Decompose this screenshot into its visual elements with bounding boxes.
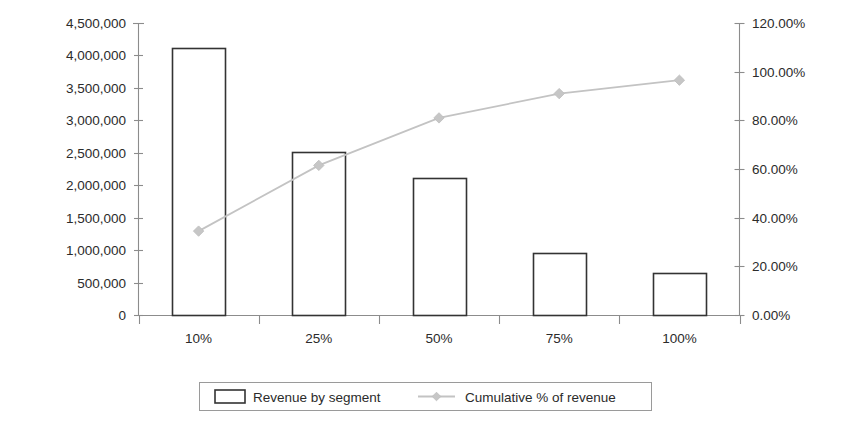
category-axis-tick-label: 100% xyxy=(662,331,697,346)
category-axis-tick-label: 10% xyxy=(185,331,212,346)
right-axis-tick-label: 0.00% xyxy=(752,308,790,323)
left-axis-tick-label: 3,000,000 xyxy=(66,113,126,128)
bar[interactable] xyxy=(414,179,467,316)
left-axis-tick-label: 1,000,000 xyxy=(66,243,126,258)
left-axis-tick-label: 2,000,000 xyxy=(66,178,126,193)
left-axis-tick-label: 500,000 xyxy=(77,276,126,291)
bar[interactable] xyxy=(173,49,226,316)
bar[interactable] xyxy=(293,153,346,316)
right-axis-tick-label: 60.00% xyxy=(752,162,798,177)
left-axis-tick-label: 0 xyxy=(118,308,126,323)
pareto-chart: 0500,0001,000,0001,500,0002,000,0002,500… xyxy=(0,0,850,436)
bar[interactable] xyxy=(654,274,707,316)
chart-legend: Revenue by segment Cumulative % of reven… xyxy=(200,383,652,411)
right-axis-tick-label: 120.00% xyxy=(752,16,805,31)
legend-label-revenue-by-segment: Revenue by segment xyxy=(253,390,381,405)
legend-entry-revenue-by-segment[interactable]: Revenue by segment xyxy=(215,390,381,405)
chart-canvas: 0500,0001,000,0001,500,0002,000,0002,500… xyxy=(0,0,850,436)
left-axis-tick-label: 1,500,000 xyxy=(66,211,126,226)
left-axis-tick-label: 4,500,000 xyxy=(66,16,126,31)
left-axis-tick-label: 2,500,000 xyxy=(66,146,126,161)
right-axis-tick-label: 40.00% xyxy=(752,211,798,226)
category-axis-tick-label: 50% xyxy=(425,331,452,346)
right-axis-tick-label: 20.00% xyxy=(752,259,798,274)
legend-swatch-bar-icon xyxy=(215,390,245,403)
legend-label-cumulative-percent: Cumulative % of revenue xyxy=(465,390,616,405)
right-axis-tick-label: 100.00% xyxy=(752,65,805,80)
left-axis-tick-label: 3,500,000 xyxy=(66,81,126,96)
category-axis-tick-label: 25% xyxy=(305,331,332,346)
left-axis-tick-label: 4,000,000 xyxy=(66,48,126,63)
bar[interactable] xyxy=(534,254,587,316)
right-axis-tick-label: 80.00% xyxy=(752,113,798,128)
category-axis-tick-label: 75% xyxy=(546,331,573,346)
